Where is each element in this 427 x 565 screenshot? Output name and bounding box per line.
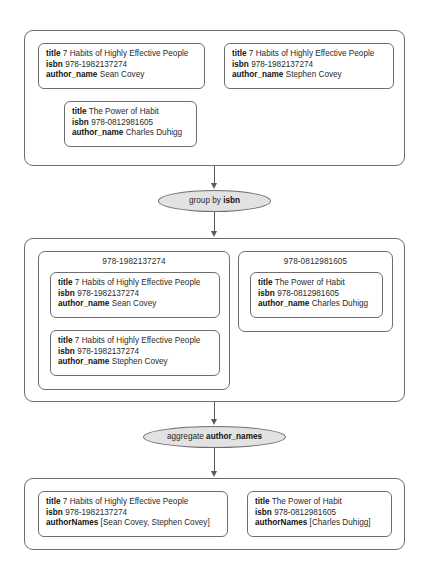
field-value-isbn: 978-1982137274	[77, 289, 139, 298]
field-label-title: title	[255, 497, 270, 506]
record-card: title 7 Habits of Highly Effective Peopl…	[38, 491, 228, 537]
record-field-isbn: isbn 978-1982137274	[46, 508, 221, 519]
connector-line	[214, 448, 215, 472]
group-box: 978-1982137274 title 7 Habits of Highly …	[38, 251, 230, 390]
record-field-title: title 7 Habits of Highly Effective Peopl…	[46, 49, 198, 60]
arrowhead-icon	[211, 471, 217, 477]
field-value-title: The Power of Habit	[275, 278, 345, 287]
field-label-isbn: isbn	[72, 118, 89, 127]
operation-prefix: aggregate	[167, 432, 206, 441]
field-value-title: 7 Habits of Highly Effective People	[63, 49, 188, 58]
field-label-title: title	[232, 49, 247, 58]
record-field-author: author_name Stephen Covey	[232, 70, 387, 81]
record-card: title 7 Habits of Highly Effective Peopl…	[224, 43, 394, 89]
field-label-isbn: isbn	[255, 508, 272, 517]
field-value-author: Sean Covey	[100, 70, 145, 79]
field-label-isbn: isbn	[58, 289, 75, 298]
field-value-author-names: [Charles Duhigg]	[310, 518, 371, 527]
field-label-title: title	[58, 278, 73, 287]
stage-grouped-records: 978-1982137274 title 7 Habits of Highly …	[24, 238, 405, 402]
field-label-isbn: isbn	[46, 508, 63, 517]
record-field-author-names: authorNames [Charles Duhigg]	[255, 518, 385, 529]
field-value-author: Stephen Covey	[286, 70, 342, 79]
field-label-author: author_name	[58, 299, 109, 308]
field-label-author-names: authorNames	[46, 518, 98, 527]
field-value-author-names: [Sean Covey, Stephen Covey]	[101, 518, 210, 527]
arrowhead-icon	[211, 231, 217, 237]
record-card: title 7 Habits of Highly Effective Peopl…	[50, 330, 220, 376]
dataflow-diagram: title 7 Habits of Highly Effective Peopl…	[0, 0, 427, 565]
field-value-isbn: 978-1982137274	[65, 508, 127, 517]
record-field-title: title The Power of Habit	[72, 107, 190, 118]
field-value-author: Stephen Covey	[112, 357, 168, 366]
record-field-isbn: isbn 978-0812981605	[255, 508, 385, 519]
record-field-author: author_name Stephen Covey	[58, 357, 213, 368]
field-value-isbn: 978-1982137274	[65, 60, 127, 69]
field-label-title: title	[46, 497, 61, 506]
connector-groupby-to-grouped	[214, 212, 215, 238]
group-box: 978-0812981605 title The Power of Habit …	[238, 251, 393, 332]
record-field-author: author_name Charles Duhigg	[72, 128, 190, 139]
record-card: title 7 Habits of Highly Effective Peopl…	[50, 272, 220, 318]
field-value-title: The Power of Habit	[89, 107, 159, 116]
record-field-author: author_name Charles Duhigg	[258, 299, 376, 310]
field-value-author: Sean Covey	[112, 299, 157, 308]
field-label-title: title	[258, 278, 273, 287]
record-card: title The Power of Habit isbn 978-081298…	[250, 272, 383, 318]
connector-line	[214, 402, 215, 420]
record-field-title: title The Power of Habit	[258, 278, 376, 289]
field-value-isbn: 978-0812981605	[91, 118, 153, 127]
field-value-isbn: 978-0812981605	[274, 508, 336, 517]
record-card: title The Power of Habit isbn 978-081298…	[247, 491, 392, 537]
record-card: title 7 Habits of Highly Effective Peopl…	[38, 43, 205, 89]
field-label-isbn: isbn	[58, 347, 75, 356]
field-label-title: title	[58, 336, 73, 345]
record-field-title: title 7 Habits of Highly Effective Peopl…	[46, 497, 221, 508]
field-value-title: 7 Habits of Highly Effective People	[63, 497, 188, 506]
stage-input-records: title 7 Habits of Highly Effective Peopl…	[24, 30, 405, 166]
field-label-author: author_name	[72, 128, 123, 137]
record-field-title: title The Power of Habit	[255, 497, 385, 508]
arrowhead-icon	[211, 183, 217, 189]
field-value-title: 7 Habits of Highly Effective People	[75, 278, 200, 287]
record-field-isbn: isbn 978-0812981605	[72, 118, 190, 129]
field-label-author: author_name	[58, 357, 109, 366]
record-field-isbn: isbn 978-1982137274	[232, 60, 387, 71]
operation-prefix: group by	[189, 196, 223, 205]
connector-aggregate-to-output	[214, 448, 215, 478]
field-label-isbn: isbn	[232, 60, 249, 69]
field-value-title: 7 Habits of Highly Effective People	[249, 49, 374, 58]
stage-aggregated-records: title 7 Habits of Highly Effective Peopl…	[24, 478, 405, 550]
record-field-isbn: isbn 978-1982137274	[46, 60, 198, 71]
field-label-isbn: isbn	[258, 289, 275, 298]
field-label-author: author_name	[258, 299, 309, 308]
operation-aggregate[interactable]: aggregate author_names	[143, 426, 286, 448]
operation-group-by[interactable]: group by isbn	[158, 190, 271, 212]
field-value-isbn: 978-1982137274	[251, 60, 313, 69]
connector-line	[214, 166, 215, 184]
field-value-isbn: 978-1982137274	[77, 347, 139, 356]
field-value-title: 7 Habits of Highly Effective People	[75, 336, 200, 345]
field-value-isbn: 978-0812981605	[277, 289, 339, 298]
field-value-title: The Power of Habit	[272, 497, 342, 506]
field-label-author-names: authorNames	[255, 518, 307, 527]
operation-field: isbn	[223, 196, 240, 205]
field-label-isbn: isbn	[46, 60, 63, 69]
record-card: title The Power of Habit isbn 978-081298…	[64, 101, 197, 147]
record-field-isbn: isbn 978-1982137274	[58, 289, 213, 300]
field-label-author: author_name	[46, 70, 97, 79]
group-key-label: 978-1982137274	[39, 252, 229, 267]
operation-field: author_names	[206, 432, 262, 441]
connector-grouped-to-aggregate	[214, 402, 215, 426]
connector-line	[214, 212, 215, 232]
record-field-author: author_name Sean Covey	[46, 70, 198, 81]
field-label-author: author_name	[232, 70, 283, 79]
arrowhead-icon	[211, 419, 217, 425]
record-field-title: title 7 Habits of Highly Effective Peopl…	[58, 278, 213, 289]
record-field-title: title 7 Habits of Highly Effective Peopl…	[58, 336, 213, 347]
field-label-title: title	[46, 49, 61, 58]
operation-label: aggregate author_names	[167, 432, 262, 442]
field-label-title: title	[72, 107, 87, 116]
record-field-author: author_name Sean Covey	[58, 299, 213, 310]
operation-label: group by isbn	[189, 196, 240, 206]
